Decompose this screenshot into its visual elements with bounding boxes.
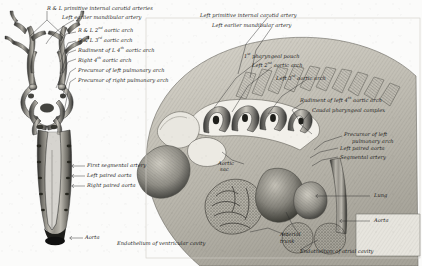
label-left-3rd-pre: Left 3 bbox=[276, 75, 292, 81]
label-aorta-right-panel: Aorta bbox=[374, 217, 389, 223]
label-caudal-pharyngeal-complex: Caudal pharyngeal complex bbox=[312, 107, 385, 113]
label-arterial-trunk-line2: trunk bbox=[280, 238, 294, 244]
label-right-4th-pre: Right 4 bbox=[78, 57, 97, 63]
label-3rd-aortic-arch-post: aortic arch bbox=[102, 37, 133, 43]
label-left-2nd-aortic-arch: Left 2nd aortic arch bbox=[252, 62, 303, 68]
label-precursor-left-pulmonary-arch: Precursor of left pulmonary arch bbox=[78, 67, 165, 73]
label-lung: Lung bbox=[374, 192, 387, 198]
label-left-primitive-internal-carotid-artery: Left primitive internal carotid artery bbox=[200, 12, 297, 18]
label-rudiment-left-4th-pre: Rudiment of L 4 bbox=[78, 47, 120, 53]
label-rud-left-4th-post: aortic arch bbox=[351, 97, 382, 103]
label-first-segmental-artery: First segmental artery bbox=[87, 162, 146, 168]
label-2nd-aortic-arch: R & L 2nd aortic arch bbox=[78, 27, 133, 33]
label-rud-left-4th-pre: Rudiment of left 4 bbox=[300, 97, 348, 103]
label-left-2nd-post: aortic arch bbox=[272, 62, 303, 68]
label-primitive-internal-carotid-arteries: R & L primitive internal carotid arterie… bbox=[47, 5, 153, 11]
label-endothelium-of-ventricular-cavity: Endothelium of ventricular cavity bbox=[117, 240, 205, 246]
label-rudiment-left-4th-aortic-arch-right: Rudiment of left 4th aortic arch bbox=[300, 97, 382, 103]
label-2nd-aortic-arch-post: aortic arch bbox=[103, 27, 134, 33]
label-first-pharyngeal-pouch: 1st pharyngeal pouch bbox=[244, 53, 299, 59]
label-left-paired-aorta-right-panel: Left paired aorta bbox=[340, 145, 385, 151]
label-segmental-artery: Segmental artery bbox=[340, 154, 386, 160]
label-right-paired-aorta: Right paired aorta bbox=[87, 182, 135, 188]
label-left-earlier-mandibular-artery-right-panel: Left earlier mandibular artery bbox=[212, 22, 291, 28]
label-2nd-aortic-arch-pre: R & L 2 bbox=[78, 27, 98, 33]
label-3rd-aortic-arch-pre: R & L 3 bbox=[78, 37, 98, 43]
label-left-3rd-post: aortic arch bbox=[295, 75, 326, 81]
label-endothelium-of-atrial-cavity: Endothelium of atrial cavity bbox=[300, 248, 373, 254]
label-precursor-left-pulmonary-arch-line1: Precursor of left bbox=[344, 131, 387, 137]
label-precursor-right-pulmonary-arch: Precursor of right pulmonary arch bbox=[78, 77, 169, 83]
label-left-earlier-mandibular-artery: Left earlier mandibular artery bbox=[62, 14, 141, 20]
label-left-2nd-pre: Left 2 bbox=[252, 62, 268, 68]
lung-bud bbox=[294, 182, 327, 219]
label-aorta-left-panel: Aorta bbox=[85, 234, 100, 240]
label-aortic-sac-line2: sac bbox=[220, 166, 229, 172]
label-rudiment-left-4th-aortic-arch: Rudiment of L 4th aortic arch bbox=[78, 47, 155, 53]
anatomical-plate: R & L primitive internal carotid arterie… bbox=[0, 0, 422, 266]
label-arterial-trunk-line1: Arterial bbox=[280, 231, 300, 237]
label-left-paired-aorta: Left paired aorta bbox=[87, 172, 132, 178]
label-pouch1-post: pharyngeal pouch bbox=[251, 53, 300, 59]
label-left-3rd-aortic-arch: Left 3rd aortic arch bbox=[276, 75, 326, 81]
label-rudiment-left-4th-post: aortic arch bbox=[124, 47, 155, 53]
label-precursor-left-pulmonary-arch-line2: pulmonary arch bbox=[352, 138, 394, 144]
label-3rd-aortic-arch: R & L 3rd aortic arch bbox=[78, 37, 133, 43]
label-right-4th-post: aortic arch bbox=[101, 57, 132, 63]
label-right-4th-aortic-arch: Right 4th aortic arch bbox=[78, 57, 131, 63]
